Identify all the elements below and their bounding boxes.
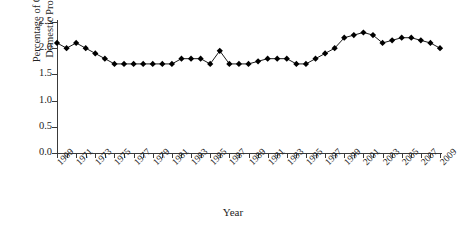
data-point: [284, 56, 290, 62]
data-point: [303, 61, 309, 67]
x-tick-label: 1969: [55, 147, 76, 168]
data-point: [360, 29, 366, 35]
data-point: [322, 50, 328, 56]
data-point: [226, 61, 232, 67]
x-tick-label: 2003: [381, 147, 402, 168]
data-point: [140, 61, 146, 67]
x-tick-label: 1977: [132, 147, 153, 168]
series-markers: [54, 29, 443, 67]
y-tick: [52, 74, 57, 75]
x-tick-label: 1973: [93, 147, 114, 168]
data-point: [255, 58, 261, 64]
data-point: [111, 61, 117, 67]
data-point: [265, 56, 271, 62]
x-tick-label: 1991: [266, 147, 287, 168]
data-point: [274, 56, 280, 62]
data-point: [102, 56, 108, 62]
x-tick-label: 1989: [247, 147, 268, 168]
data-point: [63, 45, 69, 51]
y-tick-label: 2.0: [0, 41, 52, 52]
data-point: [293, 61, 299, 67]
data-point: [73, 40, 79, 46]
x-tick-label: 1995: [304, 147, 325, 168]
series-line: [57, 32, 440, 63]
x-tick-label: 1999: [342, 147, 363, 168]
data-point: [437, 45, 443, 51]
y-tick: [52, 48, 57, 49]
data-point: [207, 61, 213, 67]
data-point: [92, 50, 98, 56]
data-point: [236, 61, 242, 67]
chart-figure: Percentage of Gross Domestic Product 0.0…: [0, 0, 466, 233]
data-point: [408, 35, 414, 41]
data-point: [418, 37, 424, 43]
x-tick-label: 1987: [227, 147, 248, 168]
data-point: [427, 40, 433, 46]
y-tick-label: 1.5: [0, 67, 52, 78]
x-tick-label: 1997: [323, 147, 344, 168]
x-tick-label: 1981: [170, 147, 191, 168]
y-axis-line: [57, 20, 58, 154]
y-tick: [52, 101, 57, 102]
data-point: [198, 56, 204, 62]
x-tick-label: 1971: [74, 147, 95, 168]
x-tick-label: 2005: [400, 147, 421, 168]
x-tick-label: 1975: [112, 147, 133, 168]
data-point: [178, 56, 184, 62]
y-tick: [52, 127, 57, 128]
data-point: [332, 45, 338, 51]
data-point: [159, 61, 165, 67]
data-point: [351, 32, 357, 38]
data-point: [312, 56, 318, 62]
y-tick-label: 0.0: [0, 146, 52, 157]
data-point: [83, 45, 89, 51]
data-point: [217, 48, 223, 54]
x-tick-label: 2009: [438, 147, 459, 168]
data-point: [245, 61, 251, 67]
x-tick-label: 2007: [419, 147, 440, 168]
data-point: [341, 35, 347, 41]
data-point: [121, 61, 127, 67]
series-plot: [0, 0, 466, 233]
y-tick: [52, 22, 57, 23]
y-tick-label: 2.5: [0, 15, 52, 26]
data-point: [370, 32, 376, 38]
x-tick-label: 1983: [189, 147, 210, 168]
data-point: [389, 37, 395, 43]
data-point: [150, 61, 156, 67]
data-point: [131, 61, 137, 67]
x-tick-label: 1979: [151, 147, 172, 168]
data-point: [399, 35, 405, 41]
data-point: [379, 40, 385, 46]
y-tick-label: 1.0: [0, 94, 52, 105]
y-tick-label: 0.5: [0, 120, 52, 131]
x-tick-label: 1985: [208, 147, 229, 168]
x-axis-title: Year: [0, 206, 466, 218]
data-point: [188, 56, 194, 62]
x-tick-label: 1993: [285, 147, 306, 168]
x-tick-label: 2001: [361, 147, 382, 168]
data-point: [169, 61, 175, 67]
